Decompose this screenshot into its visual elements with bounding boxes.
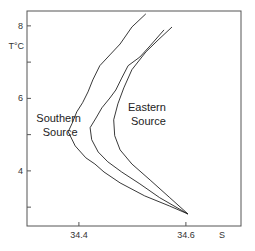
x-tick-label: 34.4 xyxy=(70,230,88,240)
x-axis-title: S xyxy=(219,230,225,240)
annotation-southern-source: Southern Source xyxy=(36,112,84,138)
ts-diagram: 864 34.434.6 T°C S Southern Source Easte… xyxy=(0,0,255,251)
series-layer xyxy=(68,14,188,214)
x-axis-ticks: 34.434.6 xyxy=(70,222,195,240)
annotation-southern-line1: Southern xyxy=(36,112,81,124)
y-tick-label: 6 xyxy=(18,93,23,103)
annotation-eastern-line2: Source xyxy=(131,115,166,127)
x-tick-label: 34.6 xyxy=(177,230,195,240)
y-axis-title: T°C xyxy=(8,41,24,51)
y-tick-label: 4 xyxy=(18,166,23,176)
annotation-southern-line2: Source xyxy=(43,126,78,138)
y-tick-label: 8 xyxy=(18,21,23,31)
annotation-eastern-source: Eastern Source xyxy=(128,101,169,127)
series-line-1 xyxy=(68,14,188,214)
annotation-eastern-line1: Eastern xyxy=(128,101,166,113)
